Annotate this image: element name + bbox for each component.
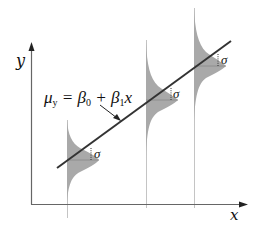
regression-diagram: [0, 0, 259, 232]
sigma-label-1: σ: [94, 147, 100, 160]
distribution-curve-1: [67, 120, 99, 205]
x-axis-label: x: [230, 208, 238, 223]
equation-beta0: = β: [58, 88, 86, 107]
sigma-label-3: σ: [221, 53, 227, 66]
regression-equation: μy = β0 + β1x: [44, 89, 132, 108]
equation-beta1: + β: [91, 88, 119, 107]
x-axis-arrow-icon: [239, 202, 248, 208]
sigma-label-2: σ: [173, 87, 179, 100]
y-axis-label: y: [16, 53, 25, 69]
y-axis-arrow-icon: [29, 42, 35, 51]
equation-x: x: [124, 88, 132, 107]
equation-mu: μ: [44, 88, 53, 107]
